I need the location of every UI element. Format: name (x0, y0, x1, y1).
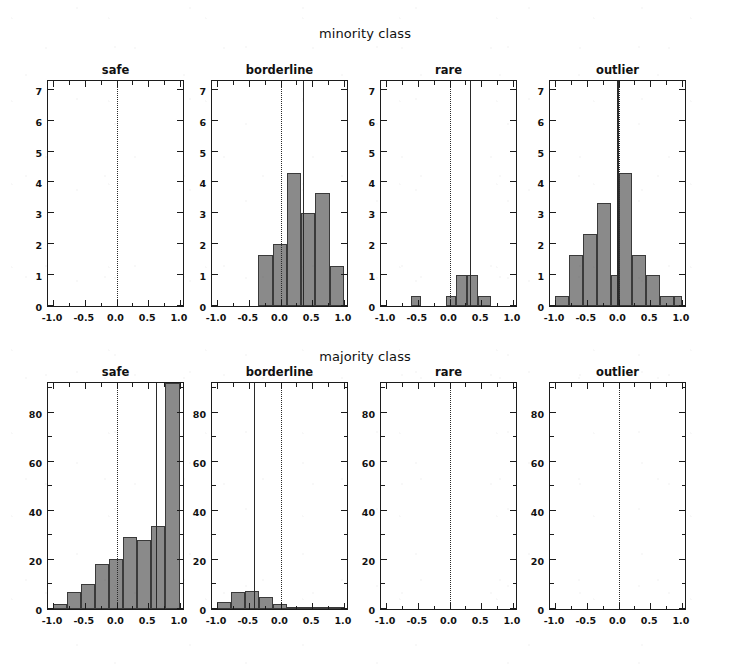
x-tick-major (587, 603, 588, 609)
x-axis-tick-label: 0.5 (641, 615, 658, 626)
x-tick-major (650, 603, 651, 609)
y-tick-minor-right (682, 387, 686, 388)
histogram-bar (569, 255, 583, 306)
y-axis-tick-label: 5 (356, 147, 375, 158)
x-tick-minor (328, 606, 329, 610)
y-tick-major-right (341, 559, 347, 560)
y-axis-tick-label: 6 (356, 116, 375, 127)
x-axis-tick-label: 1.0 (673, 312, 690, 323)
y-tick-major-right (679, 608, 685, 609)
x-axis-tick-label: -0.5 (575, 312, 596, 323)
x-axis-tick-label: 1.0 (335, 615, 352, 626)
x-tick-major-top (587, 81, 588, 87)
panel-minority-safe: safe-1.0-0.50.00.51.001234567 (47, 80, 184, 307)
x-tick-major (281, 300, 282, 306)
y-tick-major (550, 305, 556, 306)
y-tick-major-right (177, 510, 183, 511)
x-axis-tick-label: 0.5 (303, 615, 320, 626)
x-tick-major (450, 300, 451, 306)
y-tick-minor (381, 534, 385, 535)
x-tick-minor (434, 303, 435, 307)
x-tick-major-top (180, 81, 181, 87)
dotted-zero-line (619, 81, 620, 306)
x-tick-minor (164, 303, 165, 307)
y-tick-major (550, 559, 556, 560)
y-axis-tick-label: 60 (525, 457, 544, 468)
y-tick-major (212, 181, 218, 182)
x-axis-tick-label: 0.0 (440, 312, 457, 323)
y-tick-minor-right (344, 485, 348, 486)
x-tick-minor (571, 303, 572, 307)
y-tick-minor (550, 583, 554, 584)
x-tick-minor-top (465, 383, 466, 387)
axes-frame (380, 80, 517, 307)
y-tick-major-right (177, 243, 183, 244)
x-tick-minor-top (296, 81, 297, 85)
y-axis-tick-label: 4 (525, 178, 544, 189)
y-tick-major-right (679, 274, 685, 275)
panel-title-borderline: borderline (211, 365, 348, 379)
y-axis-tick-label: 0 (525, 605, 544, 616)
y-tick-minor (212, 436, 216, 437)
x-tick-minor (132, 606, 133, 610)
y-tick-major-right (177, 274, 183, 275)
y-tick-major (550, 120, 556, 121)
y-axis-tick-label: 0 (525, 302, 544, 313)
y-axis-tick-label: 60 (356, 457, 375, 468)
y-tick-minor-right (513, 534, 517, 535)
y-tick-major (550, 461, 556, 462)
y-tick-minor-right (682, 534, 686, 535)
y-axis-tick-label: 2 (187, 240, 206, 251)
x-tick-minor (296, 606, 297, 610)
majority-class-title: majority class (0, 349, 730, 364)
x-tick-major (650, 300, 651, 306)
x-tick-major-top (587, 383, 588, 389)
y-tick-major (550, 181, 556, 182)
x-tick-major (587, 300, 588, 306)
y-tick-major (48, 274, 54, 275)
x-tick-minor (634, 606, 635, 610)
x-axis-tick-label: -0.5 (73, 615, 94, 626)
x-tick-minor-top (434, 383, 435, 387)
x-tick-minor-top (571, 383, 572, 387)
x-axis-tick-label: 0.5 (303, 312, 320, 323)
y-tick-major-right (177, 120, 183, 121)
x-tick-minor-top (571, 81, 572, 85)
x-tick-major-top (249, 81, 250, 87)
x-axis-tick-label: 0.0 (271, 615, 288, 626)
x-tick-minor-top (265, 81, 266, 85)
y-tick-minor (381, 583, 385, 584)
y-tick-minor-right (344, 583, 348, 584)
y-tick-major-right (679, 181, 685, 182)
y-axis-tick-label: 40 (187, 506, 206, 517)
x-tick-major-top (217, 81, 218, 87)
x-tick-major-top (53, 383, 54, 389)
histogram-bar (597, 203, 611, 306)
y-tick-minor-right (682, 583, 686, 584)
y-axis-tick-label: 0 (187, 605, 206, 616)
y-tick-minor (48, 583, 52, 584)
y-tick-minor (381, 485, 385, 486)
x-tick-minor-top (164, 383, 165, 387)
y-tick-major (381, 274, 387, 275)
x-tick-minor (233, 606, 234, 610)
y-tick-minor (48, 436, 52, 437)
y-tick-minor-right (513, 387, 517, 388)
y-tick-major-right (341, 461, 347, 462)
histogram-bar (151, 526, 165, 609)
y-tick-major (381, 559, 387, 560)
y-tick-major-right (341, 510, 347, 511)
dotted-zero-line (117, 81, 118, 306)
x-tick-major-top (481, 383, 482, 389)
y-axis-tick-label: 5 (525, 147, 544, 158)
x-tick-minor-top (603, 383, 604, 387)
y-tick-minor (381, 387, 385, 388)
y-tick-major-right (510, 274, 516, 275)
x-tick-major-top (481, 81, 482, 87)
minority-class-title: minority class (0, 26, 730, 41)
y-tick-major-right (341, 181, 347, 182)
y-tick-minor-right (180, 534, 184, 535)
y-tick-major (550, 412, 556, 413)
y-axis-tick-label: 4 (187, 178, 206, 189)
y-axis-tick-label: 1 (525, 271, 544, 282)
